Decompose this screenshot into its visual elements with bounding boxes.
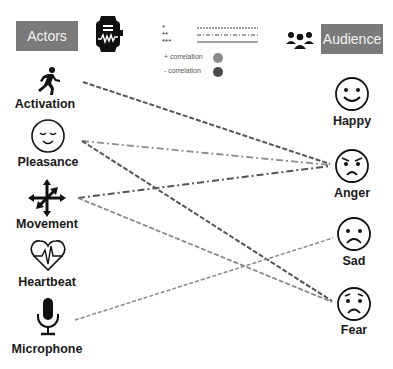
happy-face-icon — [334, 76, 370, 112]
line-pleasance-fear — [82, 141, 332, 301]
actor-label-pleasance: Pleasance — [3, 155, 93, 169]
audience-label-anger: Anger — [307, 186, 393, 200]
running-person-icon — [32, 66, 62, 96]
audience-label-fear: Fear — [309, 323, 393, 337]
audience-label-sad: Sad — [309, 254, 393, 268]
line-activation-anger — [83, 82, 330, 164]
actor-label-activation: Activation — [0, 97, 90, 111]
line-movement-anger — [78, 166, 330, 198]
content-face-icon — [30, 118, 66, 154]
sad-face-icon — [336, 216, 372, 252]
heartbeat-icon — [30, 238, 66, 272]
actor-label-microphone: Microphone — [2, 342, 92, 356]
microphone-icon — [34, 298, 62, 336]
fearful-face-icon — [336, 286, 372, 322]
line-pleasance-anger — [82, 141, 330, 165]
move-arrows-icon — [28, 179, 66, 217]
actor-label-movement: Movement — [2, 217, 92, 231]
audience-label-happy: Happy — [307, 114, 393, 128]
angry-face-icon — [334, 148, 370, 184]
actor-label-heartbeat: Heartbeat — [2, 275, 92, 289]
